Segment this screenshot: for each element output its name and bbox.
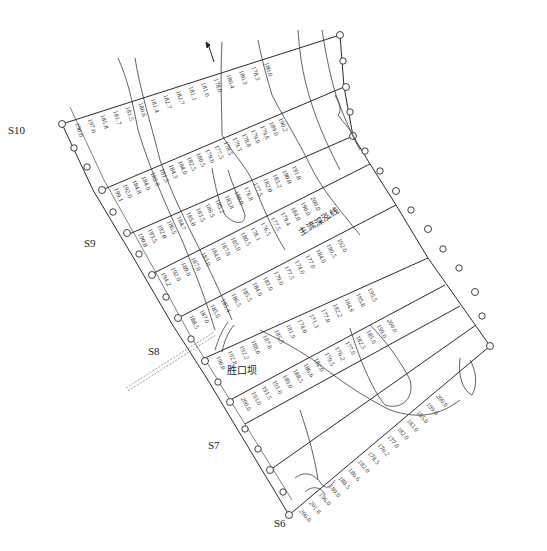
elevation-value: 171.3 <box>308 313 320 329</box>
elevation-value: 177.5 <box>283 264 296 280</box>
elevation-value: 184.6 <box>343 297 356 314</box>
elevation-value: 200.0 <box>435 392 450 408</box>
elevation-value: 192.0 <box>170 266 183 282</box>
elevation-value: 199.0 <box>425 401 440 417</box>
elevation-value: 180.4 <box>225 73 236 90</box>
elevation-value: 176.2 <box>376 442 391 458</box>
contour-185-a <box>298 30 340 170</box>
elevation-value: 181.0 <box>200 81 211 97</box>
elevation-value: 194.2 <box>160 271 173 287</box>
elevation-value: 185.0 <box>230 236 243 252</box>
elevation-value: 191.0 <box>271 379 284 395</box>
elevation-value: 181.4 <box>150 97 161 114</box>
elevation-value: 195.5 <box>367 287 379 303</box>
survey-drawing: 180.0178.3180.3180.4178.0181.0181.1182.7… <box>0 0 547 551</box>
elevation-value: 177.0 <box>344 340 357 356</box>
elevation-value: 182.7 <box>175 89 186 106</box>
elevation-value: 188.5 <box>292 368 305 384</box>
elevation-value: 190.0 <box>137 232 149 248</box>
elevation-value: 179.5 <box>323 351 336 367</box>
elevation-value: 187.0 <box>220 241 233 257</box>
section-line-s10 <box>62 35 340 124</box>
elevation-value: 185.4 <box>220 297 233 314</box>
elevation-value: 182.0 <box>396 425 411 441</box>
elevation-value: 186.5 <box>230 292 243 308</box>
elevation-value: 184.0 <box>315 248 328 264</box>
contour-185-loop <box>460 358 476 395</box>
elevation-value: 184.0 <box>251 281 264 297</box>
elevation-value: 182.0 <box>357 458 372 474</box>
elevation-value: 185.0 <box>415 409 430 425</box>
elevation-value: 188.5 <box>337 475 352 491</box>
north-arrow-icon <box>206 42 214 62</box>
contour-200-mid <box>300 410 318 480</box>
elevation-value: 190.5 <box>325 242 338 258</box>
elevation-value: 199.1 <box>113 187 125 203</box>
elevation-value: 180.3 <box>238 69 249 85</box>
weir-label: 胜口坝 <box>227 362 257 377</box>
elevation-value: 184.0 <box>290 205 303 221</box>
section-label-s6: S6 <box>274 517 286 529</box>
elevation-value: 195.0 <box>355 292 367 308</box>
elevation-value: 177.0 <box>386 434 401 450</box>
elevation-value: 200.0 <box>310 195 323 211</box>
elevation-value: 183.0 <box>200 251 213 267</box>
elevation-value: 185.5 <box>273 328 285 344</box>
elevation-value: 186.6 <box>347 466 362 482</box>
elevation-value: 190.0 <box>300 200 313 216</box>
section-label-s7: S7 <box>208 439 220 451</box>
elevation-value: 174.0 <box>297 318 309 334</box>
elevation-value: 189.0 <box>328 483 343 499</box>
elevation-value: 206.0 <box>298 507 313 523</box>
elevation-value: 182.0 <box>313 356 326 372</box>
elevation-value: 189.0 <box>281 373 294 389</box>
section-line-s8-b <box>205 258 428 358</box>
section-label-s8: S8 <box>148 345 160 357</box>
elevation-value: 185.8 <box>99 114 110 130</box>
elevation-value: 174.0 <box>294 259 307 275</box>
elevation-value: 186.6 <box>302 362 315 379</box>
elevation-value: 181.7 <box>112 110 123 127</box>
elevation-value: 199.0 <box>375 323 388 339</box>
elevation-value: 185.5 <box>241 286 254 302</box>
elevation-value: 191.5 <box>261 384 274 400</box>
elevation-value: 196.0 <box>318 491 333 507</box>
elevation-value: 181.5 <box>125 105 136 121</box>
elevation-value: 180.5 <box>240 231 253 247</box>
elevation-value: 182.2 <box>332 302 344 318</box>
section-label-s10: S10 <box>8 124 25 136</box>
elevation-value: 176.2 <box>334 345 347 361</box>
elevation-value: 181.9 <box>285 323 297 339</box>
elevation-values: 180.0178.3180.3180.4178.0181.0181.1182.7… <box>74 61 450 523</box>
elevation-value: 193.0 <box>250 390 263 406</box>
elevation-value: 200.0 <box>386 317 399 333</box>
elevation-value: 182.7 <box>162 93 173 110</box>
elevation-value: 178.5 <box>367 450 382 466</box>
elevation-value: 187.0 <box>198 308 211 324</box>
elevation-value: 200.0 <box>240 396 253 412</box>
elevation-value: 188.0 <box>250 339 262 355</box>
elevation-value: 177.0 <box>320 307 332 323</box>
elevation-value: 178.3 <box>251 65 262 81</box>
elevation-value: 190.0 <box>74 122 85 138</box>
elevation-value: 179.0 <box>273 270 286 286</box>
elevation-value: 181.0 <box>262 275 275 291</box>
elevation-value: 181.1 <box>188 85 199 101</box>
contour-weir-a <box>215 322 228 350</box>
elevation-value: 180.6 <box>137 101 148 118</box>
elevation-value: 201.8 <box>308 499 323 515</box>
elevation-value: 197.0 <box>87 118 98 134</box>
elevation-value: 183.0 <box>406 417 421 433</box>
elevation-value: 177.0 <box>304 253 317 269</box>
section-label-s9: S9 <box>84 237 96 249</box>
elevation-value: 177.5 <box>270 216 283 232</box>
elevation-value: 192.2 <box>238 344 250 360</box>
elevation-value: 178.0 <box>213 77 224 93</box>
elevation-value: 178.1 <box>250 226 263 242</box>
elevation-value: 188.5 <box>188 314 201 330</box>
elevation-value: 184.0 <box>210 246 223 262</box>
elevation-value: 192.0 <box>336 237 349 253</box>
elevation-value: 190.0 <box>215 355 227 371</box>
